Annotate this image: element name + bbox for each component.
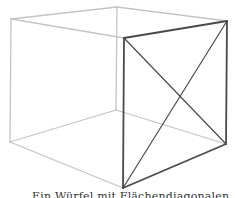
cube-edge — [10, 19, 11, 142]
cube-edge — [10, 110, 116, 142]
cube-diagram: Ein Würfel mit Flächendiagonalen — [0, 0, 235, 198]
diagram-caption: Ein Würfel mit Flächendiagonalen — [32, 190, 229, 198]
back-edges — [10, 7, 227, 188]
face-edge — [226, 21, 227, 144]
face-edge — [123, 144, 226, 188]
cube-edge — [11, 19, 124, 38]
cube-edge — [116, 7, 117, 110]
cube-edge — [11, 7, 117, 19]
face-diagonals — [123, 21, 227, 188]
cube-edge — [10, 142, 123, 188]
face-edge — [123, 38, 124, 188]
cube-wireframe — [0, 0, 235, 198]
diagonal-line — [123, 21, 227, 188]
cube-edge — [117, 7, 227, 21]
face-edge — [124, 21, 227, 38]
